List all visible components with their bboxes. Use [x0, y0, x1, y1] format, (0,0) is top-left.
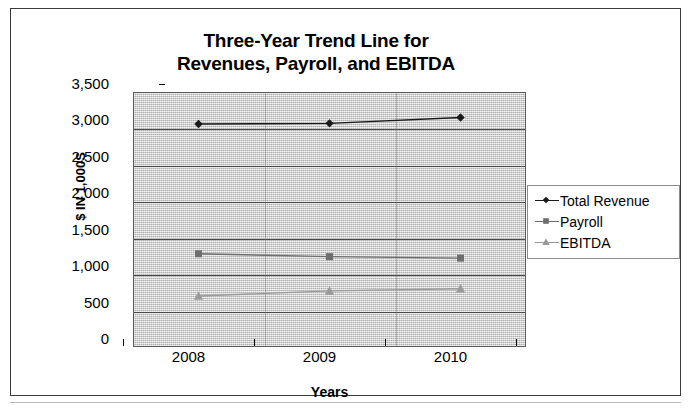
- chart-frame: Three-Year Trend Line for Revenues, Payr…: [10, 8, 681, 396]
- legend-item-ebitda[interactable]: EBITDA: [528, 232, 679, 253]
- x-tick-mark: [123, 339, 124, 346]
- legend-diamond-icon: [534, 194, 560, 208]
- y-tick-label: 1,500: [47, 222, 109, 237]
- gridline: [134, 202, 525, 203]
- gridline: [134, 129, 525, 130]
- plot-area: [133, 92, 526, 347]
- gridline: [134, 166, 525, 167]
- legend-triangle-icon: [534, 236, 560, 250]
- legend-square-icon: [534, 215, 560, 229]
- x-tick-label: 2010: [406, 348, 496, 365]
- data-point-marker: [543, 218, 549, 224]
- gridline: [134, 275, 525, 276]
- chart-page: Three-Year Trend Line for Revenues, Payr…: [0, 0, 692, 418]
- chart-title-line-2: Revenues, Payroll, and EBITDA: [71, 52, 561, 75]
- y-tick-label: 3,000: [47, 112, 109, 127]
- caption-divider: [10, 402, 681, 403]
- x-tick-label: 2008: [144, 348, 234, 365]
- legend-label: EBITDA: [560, 235, 611, 251]
- legend-label: Payroll: [560, 214, 603, 230]
- legend-item-payroll[interactable]: Payroll: [528, 211, 679, 232]
- x-tick-mark: [385, 339, 386, 346]
- chart-title: Three-Year Trend Line for Revenues, Payr…: [71, 29, 561, 75]
- y-tick-label: 1,000: [47, 258, 109, 273]
- y-axis-ticks: 05001,0001,5002,0002,5003,0003,500: [47, 9, 109, 418]
- y-tick-label: 2,500: [47, 149, 109, 164]
- x-axis-title: Years: [133, 384, 526, 400]
- bottom-caption: [10, 405, 681, 416]
- y-tick-label: 3,500: [47, 76, 109, 91]
- x-separator: [396, 93, 397, 346]
- x-tick-mark: [516, 339, 517, 346]
- data-point-marker: [542, 238, 549, 245]
- legend-label: Total Revenue: [560, 193, 650, 209]
- gridline: [134, 239, 525, 240]
- x-separator: [265, 93, 266, 346]
- y-tick-label: 2,000: [47, 185, 109, 200]
- y-tick-mark: [159, 84, 165, 85]
- x-tick-mark: [254, 339, 255, 346]
- data-point-marker: [543, 196, 550, 203]
- gridline: [134, 312, 525, 313]
- chart-legend: Total RevenuePayrollEBITDA: [527, 185, 680, 259]
- y-tick-label: 500: [47, 295, 109, 310]
- x-tick-label: 2009: [275, 348, 365, 365]
- y-tick-label: 0: [47, 331, 109, 346]
- legend-item-total-revenue[interactable]: Total Revenue: [528, 190, 679, 211]
- chart-title-line-1: Three-Year Trend Line for: [71, 29, 561, 52]
